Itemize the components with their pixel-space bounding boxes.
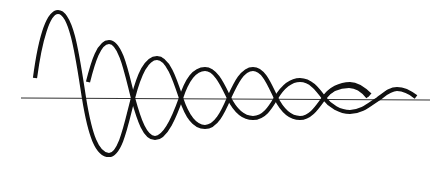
damped-waves-diagram: Two phase-shifted damped oscillations cr… [0,0,447,169]
damped-wave-a [35,12,416,155]
